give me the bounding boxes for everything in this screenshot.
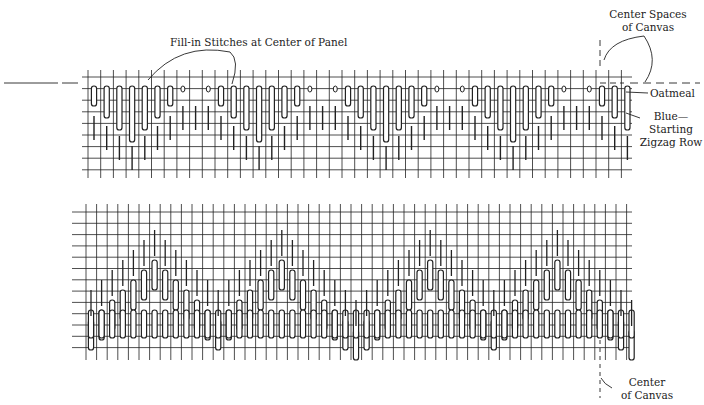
center-of-canvas-label: Center of Canvas <box>612 376 682 402</box>
blue-line1: Blue— <box>638 110 704 123</box>
stitch-diagram: Fill-in Stitches at Center of Panel Cent… <box>0 0 704 405</box>
stitch-grid-artwork <box>0 0 704 405</box>
center-spaces-line1: Center Spaces <box>603 8 693 21</box>
blue-zigzag-label: Blue— Starting Zigzag Row <box>638 110 704 149</box>
center-spaces-line2: of Canvas <box>603 21 693 34</box>
blue-line3: Zigzag Row <box>638 136 704 149</box>
blue-line2: Starting <box>638 123 704 136</box>
center-spaces-label: Center Spaces of Canvas <box>603 8 693 34</box>
fill-in-stitches-label: Fill-in Stitches at Center of Panel <box>170 36 347 49</box>
center-line1: Center <box>612 376 682 389</box>
center-line2: of Canvas <box>612 389 682 402</box>
oatmeal-label: Oatmeal <box>650 87 695 100</box>
